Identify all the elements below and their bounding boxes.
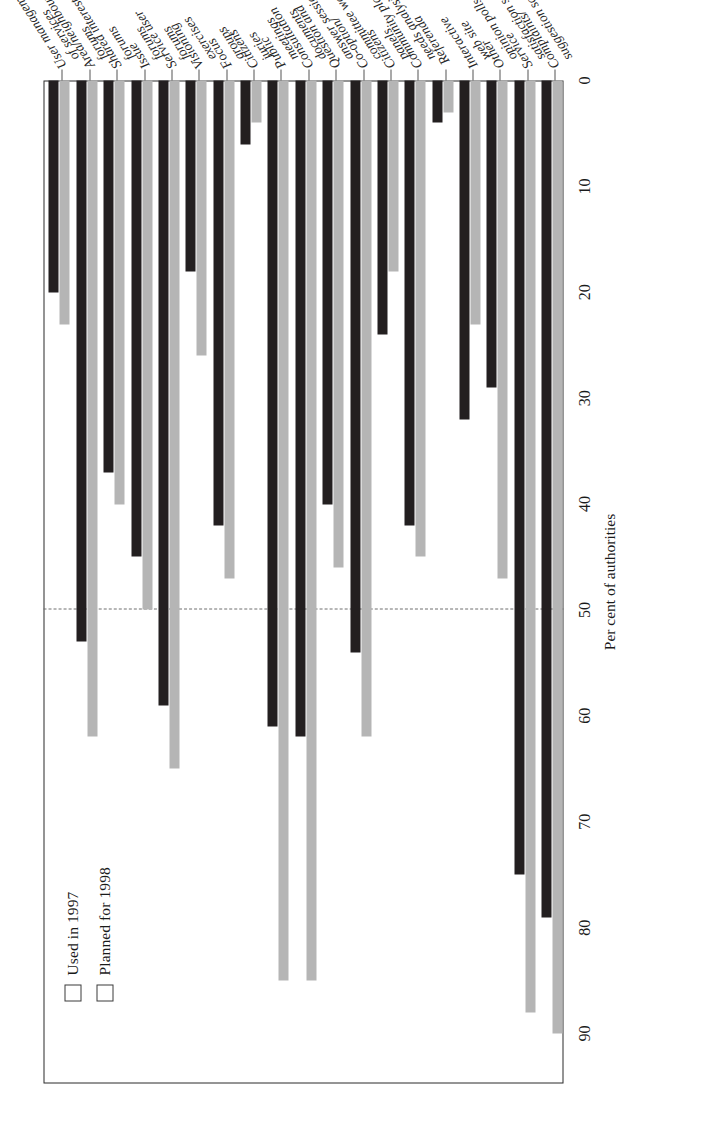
category-tick <box>417 69 418 80</box>
value-tick-label: 80 <box>575 919 593 935</box>
bar-used-1997 <box>196 80 206 355</box>
bar-group: Visioning exercises <box>180 80 207 1083</box>
bar-planned-1998 <box>213 80 223 525</box>
category-tick <box>472 69 473 80</box>
bar-used-1997 <box>278 80 288 980</box>
value-tick-label: 20 <box>575 284 593 300</box>
bar-used-1997 <box>169 80 179 768</box>
bar-group: Area/neighbourhood forums <box>70 80 97 1083</box>
category-tick <box>499 69 500 80</box>
value-tick-label: 0 <box>575 76 593 84</box>
category-tick <box>445 69 446 80</box>
bar-planned-1998 <box>131 80 141 557</box>
value-tick-label: 50 <box>575 601 593 617</box>
bar-group: Other opinion polls <box>481 80 508 1083</box>
bar-group: Citizens' juries <box>235 80 262 1083</box>
category-tick <box>527 69 528 80</box>
bar-group: Interactive web site <box>454 80 481 1083</box>
bar-group: Issue forums <box>125 80 152 1083</box>
bar-group: Public meetings <box>262 80 289 1083</box>
bar-used-1997 <box>333 80 343 567</box>
category-tick <box>280 69 281 80</box>
bar-planned-1998 <box>459 80 469 419</box>
bar-used-1997 <box>415 80 425 557</box>
bar-group: Service user forums <box>152 80 179 1083</box>
bar-used-1997 <box>59 80 69 324</box>
bar-used-1997 <box>114 80 124 504</box>
category-tick <box>253 69 254 80</box>
value-tick-label: 30 <box>575 390 593 406</box>
category-tick <box>198 69 199 80</box>
value-tick-label: 10 <box>575 178 593 194</box>
bar-group: Citizens' panels <box>371 80 398 1083</box>
category-tick <box>390 69 391 80</box>
bar-used-1997 <box>224 80 234 578</box>
bar-planned-1998 <box>541 80 551 917</box>
bar-group: Focus groups <box>207 80 234 1083</box>
bar-used-1997 <box>497 80 507 578</box>
bar-planned-1998 <box>76 80 86 641</box>
value-tick-label: 60 <box>575 707 593 723</box>
value-tick-label: 70 <box>575 813 593 829</box>
bar-used-1997 <box>87 80 97 737</box>
bar-planned-1998 <box>404 80 414 525</box>
bar-planned-1998 <box>322 80 332 504</box>
bar-planned-1998 <box>103 80 113 472</box>
bar-group: Referenda <box>426 80 453 1083</box>
bar-used-1997 <box>251 80 261 122</box>
bar-used-1997 <box>142 80 152 609</box>
bar-used-1997 <box>388 80 398 271</box>
bar-planned-1998 <box>295 80 305 737</box>
category-tick <box>89 69 90 80</box>
bar-used-1997 <box>306 80 316 980</box>
bar-series-container: User management of servicesArea/neighbou… <box>43 80 563 1083</box>
bar-group: Community plan/ needs analysis <box>399 80 426 1083</box>
bar-group: Shared interest forums <box>98 80 125 1083</box>
bar-used-1997 <box>525 80 535 1012</box>
bar-planned-1998 <box>267 80 277 726</box>
bar-planned-1998 <box>240 80 250 144</box>
bar-group: Question and answer sessions <box>317 80 344 1083</box>
bar-planned-1998 <box>377 80 387 334</box>
category-tick <box>171 69 172 80</box>
bar-used-1997 <box>470 80 480 324</box>
bar-used-1997 <box>443 80 453 112</box>
bar-planned-1998 <box>514 80 524 874</box>
bar-group: Consultation documents <box>289 80 316 1083</box>
bar-planned-1998 <box>48 80 58 292</box>
bar-used-1997 <box>552 80 562 1033</box>
bar-planned-1998 <box>486 80 496 387</box>
bar-group: Complaints/ suggestion schemes <box>536 80 563 1083</box>
bar-group: Co-option/ committee work <box>344 80 371 1083</box>
category-tick <box>144 69 145 80</box>
bar-planned-1998 <box>158 80 168 705</box>
chart-canvas: Used in 1997 Planned for 1998 User manag… <box>0 0 723 1143</box>
bar-group: Service satisfaction surveys <box>508 80 535 1083</box>
category-tick <box>61 69 62 80</box>
category-tick <box>116 69 117 80</box>
bar-group: User management of services <box>43 80 70 1083</box>
category-tick <box>308 69 309 80</box>
category-tick <box>363 69 364 80</box>
category-tick <box>335 69 336 80</box>
value-tick-label: 90 <box>575 1025 593 1041</box>
category-tick <box>226 69 227 80</box>
category-tick <box>554 69 555 80</box>
value-tick-label: 40 <box>575 496 593 512</box>
bar-used-1997 <box>361 80 371 737</box>
value-axis-title: Per cent of authorities <box>600 80 618 1083</box>
bar-planned-1998 <box>350 80 360 652</box>
bar-planned-1998 <box>185 80 195 271</box>
bar-planned-1998 <box>432 80 442 122</box>
